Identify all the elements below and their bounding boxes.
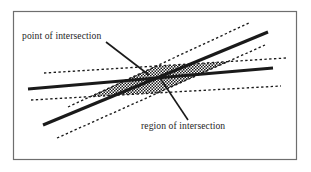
label-region-of-intersection: region of intersection [141, 120, 225, 131]
label-point-of-intersection: point of intersection [22, 30, 101, 41]
intersection-diagram: point of intersection region of intersec… [0, 0, 311, 172]
